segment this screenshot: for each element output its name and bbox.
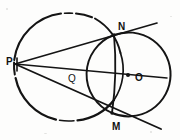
large-circle-arc-s-gap: [60, 120, 75, 121]
large-circle-arc-ne: [95, 19, 121, 54]
vertex-dot-m: [110, 111, 113, 114]
label-o: O: [135, 72, 143, 83]
label-n: N: [118, 21, 125, 32]
large-circle-arc-se: [78, 100, 115, 120]
line-p-to-n: [15, 23, 157, 64]
label-m: M: [112, 121, 120, 132]
label-p: P: [6, 56, 13, 67]
center-dot-o: [126, 73, 130, 77]
label-q: Q: [68, 73, 76, 84]
line-p-to-o: [15, 64, 167, 78]
large-circle-arc-sw: [16, 78, 56, 120]
vertex-dot-n: [112, 33, 115, 36]
geometry-canvas: P Q O N M: [0, 0, 180, 140]
geometry-figure: P Q O N M: [0, 0, 180, 140]
large-circle-arc-n1: [76, 14, 92, 18]
